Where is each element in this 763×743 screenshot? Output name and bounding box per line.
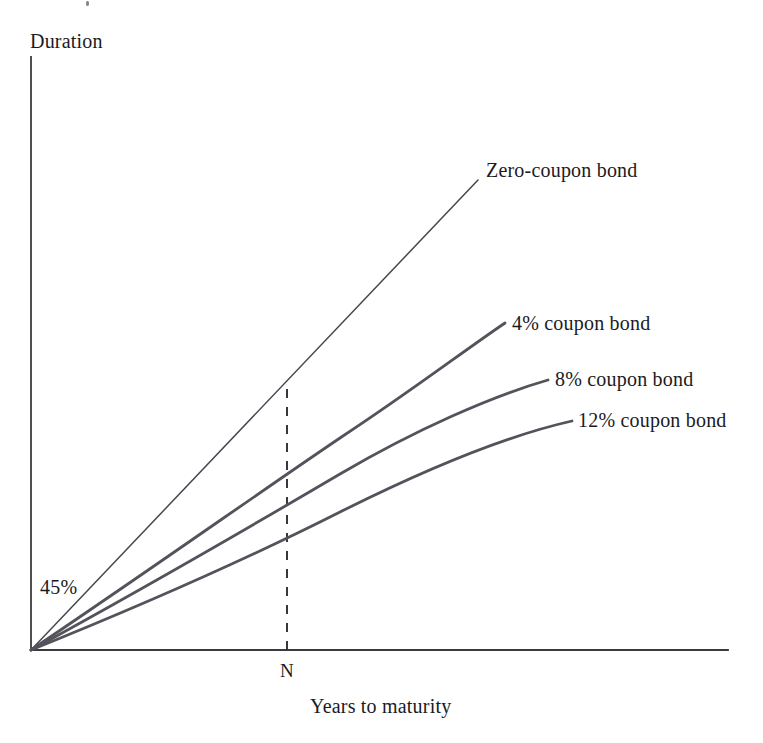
y-axis-title: Duration [30,30,103,53]
angle-annotation-45-percent: 45% [40,576,77,599]
series-label-8-percent-coupon-bond: 8% coupon bond [555,368,693,391]
series-label-zero-coupon-bond: Zero-coupon bond [486,159,638,182]
series-curve-12-percent [31,421,572,650]
axis-group [31,57,728,650]
duration-vs-maturity-figure: Duration Years to maturity N 45% Zero-co… [0,0,763,743]
series-curve-4-percent [31,323,505,650]
x-axis-title: Years to maturity [310,695,451,718]
series-curve-8-percent [31,380,548,650]
x-axis-tick-label-n: N [280,660,294,682]
series-label-4-percent-coupon-bond: 4% coupon bond [512,312,650,335]
series-line-zero-coupon [31,180,478,650]
series-label-12-percent-coupon-bond: 12% coupon bond [578,409,727,432]
